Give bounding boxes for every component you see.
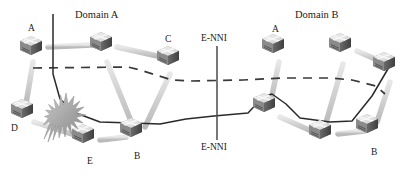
node-label-a-right: A	[272, 25, 279, 35]
domain-b-label: Domain B	[295, 10, 338, 21]
router-c-left[interactable]	[157, 46, 179, 65]
router-hub-a[interactable]	[90, 32, 112, 51]
router-d-left[interactable]	[11, 99, 33, 118]
link-b-left-to-hub-a	[107, 62, 133, 126]
link-b-right-to-far-right	[377, 82, 390, 122]
link-a-left-to-hub-a	[48, 45, 92, 47]
link-hub-b-to-low-mid	[325, 64, 343, 126]
router-a-left[interactable]	[20, 36, 42, 55]
node-label-e-left: E	[87, 157, 93, 167]
node-label-c-left: C	[165, 35, 171, 45]
link-hub-a-to-c-left	[117, 47, 162, 57]
router-a-right[interactable]	[262, 34, 284, 53]
router-b-left[interactable]	[120, 118, 142, 137]
enni-top-label: E-NNI	[201, 34, 227, 44]
node-label-d-left: D	[11, 124, 18, 134]
network-topology-diagram: Domain A Domain B E-NNI E-NNI A C D E B …	[0, 0, 415, 176]
link-low-mid-to-b-right	[338, 131, 364, 134]
link-c-left-to-b-left	[145, 74, 170, 127]
node-label-a-left: A	[28, 24, 35, 34]
router-far-right[interactable]	[373, 52, 395, 71]
enni-bottom-label: E-NNI	[201, 143, 227, 153]
link-a-left-to-d-left	[26, 62, 33, 104]
node-label-b-right: B	[371, 148, 377, 158]
dashed-control-path	[33, 67, 385, 94]
node-label-b-left: B	[134, 152, 140, 162]
domain-a-label: Domain A	[75, 10, 118, 21]
link-e-left-to-b-left	[100, 137, 126, 140]
